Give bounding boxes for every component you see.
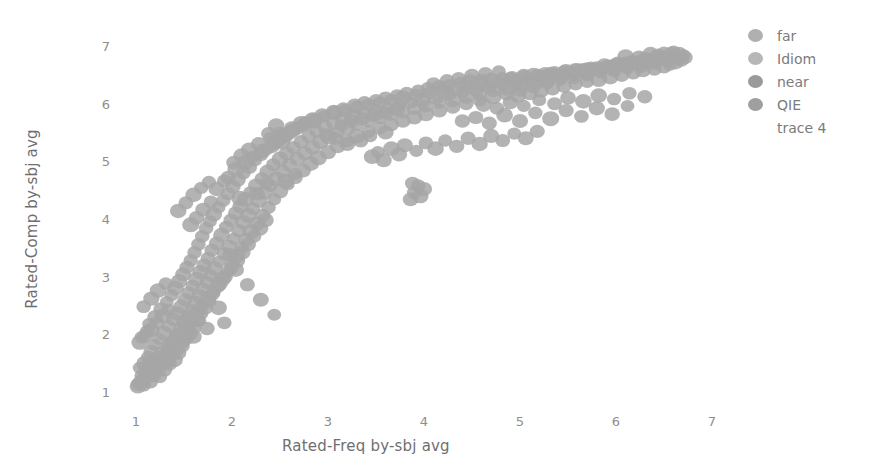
legend-item[interactable]: trace 4 xyxy=(748,116,868,139)
scatter-point xyxy=(492,65,506,77)
scatter-point xyxy=(378,125,394,139)
legend-item[interactable]: Idiom xyxy=(748,47,868,70)
scatter-point xyxy=(496,108,513,123)
scatter-point xyxy=(261,127,276,140)
scatter-points-layer xyxy=(0,0,730,410)
legend-item-label: far xyxy=(777,28,796,44)
scatter-point xyxy=(131,377,147,391)
x-tick-label: 1 xyxy=(123,415,149,428)
x-tick-label: 2 xyxy=(219,415,245,428)
y-tick-label: 1 xyxy=(84,386,110,399)
x-tick-label: 5 xyxy=(507,415,533,428)
scatter-point xyxy=(202,176,216,189)
legend-item[interactable]: near xyxy=(748,70,868,93)
scatter-point xyxy=(249,187,264,200)
scatter-point xyxy=(170,204,187,219)
x-tick-label: 6 xyxy=(603,415,629,428)
scatter-point xyxy=(259,177,273,190)
legend-marker-icon xyxy=(748,98,763,111)
scatter-point xyxy=(478,67,493,80)
y-tick-label: 5 xyxy=(84,155,110,168)
legend-item[interactable]: QIE xyxy=(748,93,868,116)
scatter-point xyxy=(288,168,302,180)
scatter-point xyxy=(589,101,605,115)
scatter-point xyxy=(635,63,651,77)
legend-item[interactable]: far xyxy=(748,24,868,47)
scatter-point xyxy=(426,77,441,90)
x-tick-label: 3 xyxy=(315,415,341,428)
scatter-point xyxy=(389,103,405,117)
scatter-point xyxy=(574,110,589,123)
scatter-point xyxy=(530,125,545,138)
legend: farIdiomnearQIEtrace 4 xyxy=(748,24,868,139)
legend-marker-icon xyxy=(748,75,763,88)
y-tick-label: 6 xyxy=(84,97,110,110)
scatter-point xyxy=(161,304,175,317)
legend-item-label: near xyxy=(777,74,809,90)
scatter-point xyxy=(604,107,620,121)
scatter-point xyxy=(267,309,281,321)
scatter-point xyxy=(482,117,497,130)
scatter-point xyxy=(240,278,255,291)
scatter-point xyxy=(590,88,607,103)
scatter-point xyxy=(307,116,322,129)
legend-marker-icon xyxy=(748,29,763,42)
legend-item-label: QIE xyxy=(777,97,801,113)
scatter-point xyxy=(637,90,652,103)
y-axis-title: Rated-Comp by-sbj avg xyxy=(23,119,41,319)
scatter-point xyxy=(475,98,491,112)
x-tick-label: 7 xyxy=(699,415,725,428)
y-tick-label: 2 xyxy=(84,328,110,341)
scatter-point xyxy=(464,69,480,83)
scatter-point xyxy=(677,51,692,64)
scatter-plot-screenshot: 1234567 1234567 Rated-Freq by-sbj avg Ra… xyxy=(0,0,873,470)
scatter-point xyxy=(455,114,470,128)
scatter-point xyxy=(512,114,528,128)
scatter-point xyxy=(258,213,274,227)
scatter-point xyxy=(622,87,636,100)
legend-item-label: trace 4 xyxy=(777,120,827,136)
y-tick-label: 3 xyxy=(84,270,110,283)
scatter-point xyxy=(560,91,576,105)
scatter-point xyxy=(416,182,432,196)
x-tick-label: 4 xyxy=(411,415,437,428)
scatter-point xyxy=(542,111,559,126)
scatter-point xyxy=(528,107,542,120)
scatter-point xyxy=(468,111,483,124)
scatter-point xyxy=(451,72,465,85)
plot-area xyxy=(0,0,730,410)
scatter-point xyxy=(231,191,248,206)
scatter-point xyxy=(253,293,269,307)
x-axis-title: Rated-Freq by-sbj avg xyxy=(282,437,450,455)
scatter-point xyxy=(217,316,232,329)
scatter-point xyxy=(363,130,377,143)
scatter-point xyxy=(204,195,218,208)
y-tick-label: 4 xyxy=(84,213,110,226)
scatter-point xyxy=(621,100,635,112)
legend-marker-icon xyxy=(748,52,763,65)
scatter-point xyxy=(159,277,173,290)
legend-item-label: Idiom xyxy=(777,51,816,67)
scatter-point xyxy=(273,134,290,149)
scatter-point xyxy=(319,128,334,141)
scatter-point xyxy=(607,93,621,106)
y-tick-label: 7 xyxy=(84,40,110,53)
scatter-point xyxy=(558,104,573,117)
legend-marker-placeholder xyxy=(748,121,763,134)
